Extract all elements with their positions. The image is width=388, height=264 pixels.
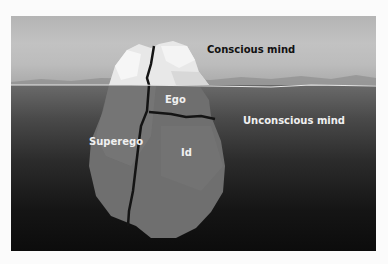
iceberg-illustration xyxy=(11,16,376,251)
unconscious-mind-label: Unconscious mind xyxy=(243,115,345,126)
superego-label: Superego xyxy=(89,136,143,147)
iceberg-diagram: Conscious mind Unconscious mind Ego Supe… xyxy=(11,16,376,251)
id-label: Id xyxy=(181,147,192,158)
ego-label: Ego xyxy=(165,94,186,105)
conscious-mind-label: Conscious mind xyxy=(207,44,295,55)
